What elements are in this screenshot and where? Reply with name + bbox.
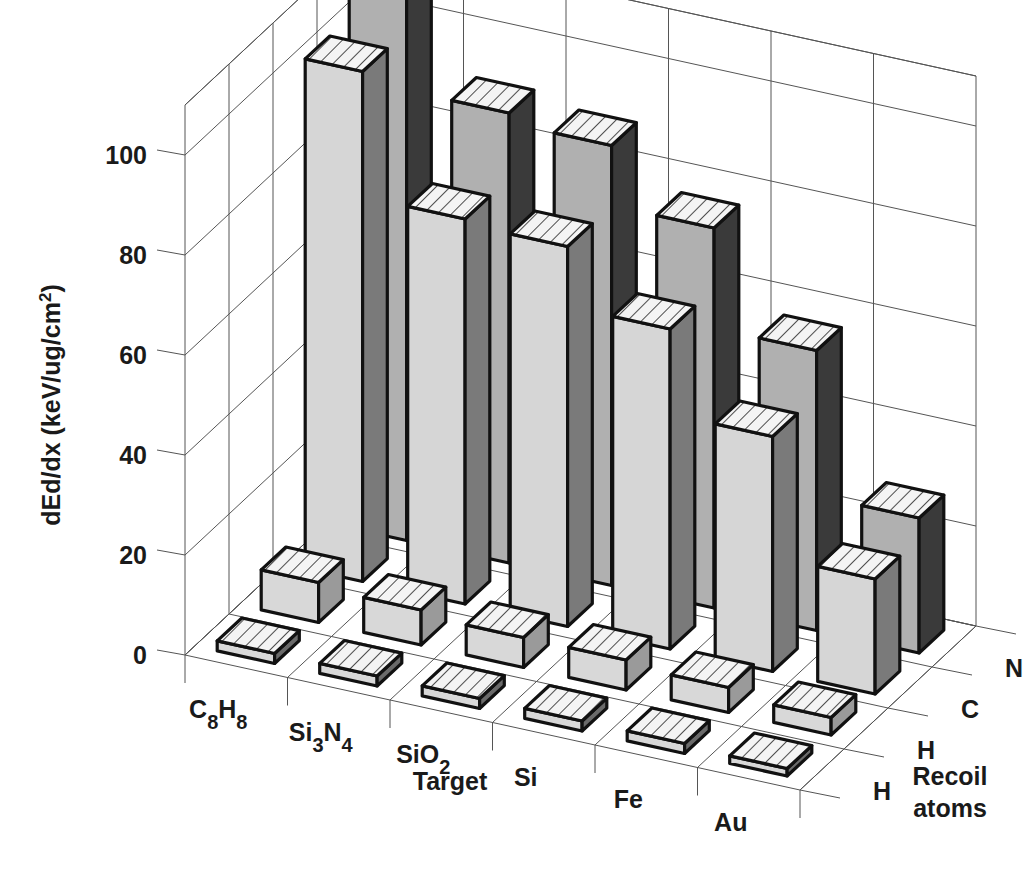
- chart-3d-bar: 020406080100 C8H8Si3N4SiO2SiFeAu HHCN dE…: [0, 0, 1034, 871]
- z-category-label: H: [873, 777, 891, 805]
- bar: [305, 36, 387, 582]
- y-tick-label: 100: [105, 141, 147, 169]
- bar: [569, 625, 651, 691]
- bar: [364, 575, 446, 646]
- z-category-label: H: [917, 736, 935, 764]
- y-tick-label: 20: [119, 541, 147, 569]
- bar: [627, 708, 709, 754]
- x-category-label: Si3N4: [289, 718, 354, 756]
- y-axis-ticks: 020406080100: [105, 141, 185, 669]
- z-axis-title-line2: atoms: [913, 794, 987, 822]
- bar: [510, 211, 592, 627]
- bar: [525, 686, 607, 732]
- bar: [818, 544, 900, 695]
- y-tick-label: 40: [119, 441, 147, 469]
- bar: [217, 618, 299, 664]
- x-category-label: Au: [714, 808, 747, 836]
- bar: [466, 602, 548, 668]
- bar: [422, 663, 504, 709]
- z-axis-title-line1: Recoil: [912, 762, 987, 790]
- bars: [217, 0, 944, 776]
- y-tick-label: 60: [119, 341, 147, 369]
- x-category-label: Fe: [614, 785, 643, 813]
- bar: [320, 641, 402, 687]
- x-category-label: Si: [514, 763, 538, 791]
- x-axis-title: Target: [413, 767, 488, 795]
- z-category-label: N: [1005, 654, 1023, 682]
- bar: [715, 401, 797, 672]
- x-category-label: C8H8: [189, 695, 247, 733]
- bar: [261, 547, 343, 623]
- y-axis-title: dEd/dx (keV/ug/cm2): [36, 284, 66, 525]
- bar: [613, 294, 695, 650]
- bar: [671, 652, 753, 713]
- y-tick-label: 0: [133, 641, 147, 669]
- bar: [774, 682, 856, 735]
- bar: [408, 184, 490, 605]
- z-category-label: C: [961, 695, 979, 723]
- y-tick-label: 80: [119, 241, 147, 269]
